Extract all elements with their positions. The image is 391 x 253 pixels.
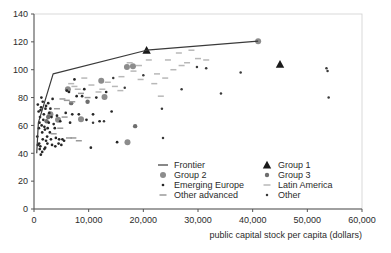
marker-dot-small [325,67,328,70]
legend-item-other[interactable]: Other [266,190,301,200]
legend-item-group-3[interactable]: Group 3 [265,170,311,180]
marker-circle-large [130,63,136,69]
marker-dot [57,142,60,145]
marker-circle-small [133,124,137,128]
y-tick-label: 80 [18,93,28,103]
y-tick-label: 20 [18,176,28,186]
marker-dot [38,148,41,151]
marker-dot [105,91,108,94]
marker-dot-small [327,96,330,99]
marker-dot [81,95,84,98]
marker-dot [52,123,55,126]
marker-dot [71,113,74,116]
legend-label: Group 2 [174,170,207,180]
chart-container: 010,00020,00030,00040,00050,00060,000 02… [0,0,391,253]
series-other-advanced [51,93,91,140]
marker-dot-small [220,92,223,95]
marker-dot [41,100,44,103]
marker-dot-small [180,88,183,91]
marker-dot [92,113,95,116]
marker-dot [83,88,86,91]
scatter-chart: 010,00020,00030,00040,00050,00060,000 02… [0,0,391,253]
marker-dot [73,78,76,81]
marker-dot-small [161,107,164,110]
x-tick-label: 60,000 [348,215,376,225]
marker-dot [46,127,49,130]
marker-dot [75,95,78,98]
series-group-2 [47,38,261,145]
marker-dot [37,110,40,113]
marker-dot [49,107,52,110]
x-axis-title: public capital stock per capita (dollars… [209,230,362,240]
marker-dot-small [142,74,145,77]
marker-dot [41,131,44,134]
marker-dot [45,105,48,108]
marker-dot [116,141,119,144]
x-tick-label: 30,000 [184,215,212,225]
marker-dot [162,184,165,187]
marker-dot [68,91,71,94]
legend-item-other-advanced[interactable]: Other advanced [160,190,239,200]
marker-dot [51,98,54,101]
marker-triangle [263,161,271,169]
marker-dot [39,145,42,148]
x-tick-label: 0 [31,215,36,225]
marker-circle-small [265,173,269,177]
y-tick-label: 0 [23,204,28,214]
marker-dot [45,139,48,142]
legend-label: Group 3 [278,170,311,180]
frontier-line [37,41,258,153]
marker-dot [63,139,66,142]
legend-item-group-1[interactable]: Group 1 [263,160,311,170]
marker-dot [64,112,67,115]
y-axis-ticks: 020406080100120140 [13,9,34,214]
legend-label: Emerging Europe [174,180,244,190]
marker-circle-small [46,115,50,119]
marker-dot-small [92,121,95,124]
legend: FrontierGroup 2Emerging EuropeOther adva… [158,160,333,200]
marker-dot [47,121,50,124]
legend-item-emerging-europe[interactable]: Emerging Europe [162,180,244,190]
marker-dot [53,127,56,130]
marker-dot [95,96,98,99]
marker-circle-large [124,64,130,70]
marker-circle-large [160,172,166,178]
y-tick-label: 60 [18,121,28,131]
marker-dot-small [112,77,115,80]
marker-dot [47,102,50,105]
y-tick-label: 140 [13,9,28,19]
data-points [36,38,330,156]
marker-dot-small [239,71,242,74]
x-tick-label: 20,000 [130,215,158,225]
x-tick-label: 40,000 [239,215,267,225]
marker-circle-large [78,116,84,122]
series-other [92,66,330,140]
legend-label: Other advanced [174,190,238,200]
legend-label: Latin America [278,180,333,190]
marker-dot [98,120,101,123]
marker-dot [42,113,45,116]
legend-item-frontier[interactable]: Frontier [158,160,205,170]
marker-dot [41,151,44,154]
legend-item-group-2[interactable]: Group 2 [160,170,207,180]
marker-dot-small [123,87,126,90]
marker-dot [43,125,46,128]
marker-dot [58,138,61,141]
marker-dot [43,148,46,151]
marker-dot [46,142,49,145]
marker-dot [40,124,43,127]
legend-item-latin-america[interactable]: Latin America [264,180,333,190]
marker-dot-small [205,67,208,70]
marker-dot [46,135,49,138]
x-axis-ticks: 010,00020,00030,00040,00050,00060,000 [31,209,375,225]
marker-dot-small [103,120,106,123]
y-tick-label: 40 [18,149,28,159]
marker-dot [69,121,72,124]
marker-dot [90,146,93,149]
marker-triangle [276,60,284,68]
marker-dot [59,120,62,123]
marker-dot [55,137,58,140]
series-latin-america [68,50,209,96]
marker-dot [38,142,41,145]
y-tick-label: 120 [13,37,28,47]
